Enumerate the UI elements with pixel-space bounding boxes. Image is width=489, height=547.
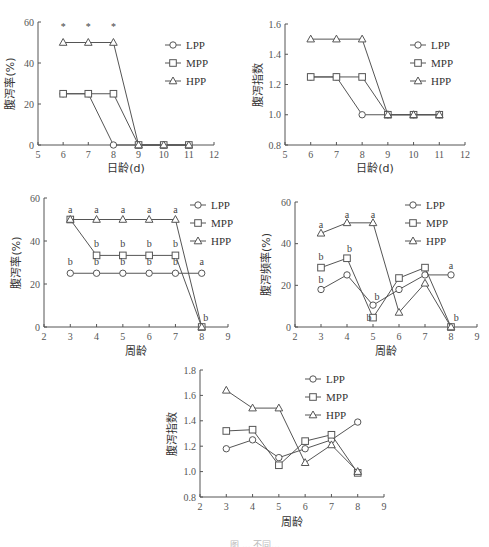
legend-label: HPP bbox=[431, 75, 451, 87]
y-tick-label: 0 bbox=[29, 140, 34, 151]
legend-circle-icon bbox=[410, 202, 416, 208]
legend-label: HPP bbox=[426, 235, 446, 247]
x-tick-label: 12 bbox=[209, 149, 219, 160]
triangle-marker-icon bbox=[369, 219, 377, 226]
x-tick-label: 6 bbox=[61, 149, 66, 160]
square-marker-icon bbox=[344, 255, 351, 262]
panel-2-daily-diarrhea-index: 567891011120.81.01.21.41.6日龄(d)腹泻指数LPPMP… bbox=[251, 19, 470, 176]
x-tick-label: 5 bbox=[371, 331, 376, 342]
circle-marker-icon bbox=[344, 272, 350, 278]
significance-label: b bbox=[173, 238, 178, 249]
legend-label: HPP bbox=[326, 409, 346, 421]
legend-circle-icon bbox=[170, 42, 176, 48]
circle-marker-icon bbox=[249, 437, 255, 443]
y-tick-label: 1.0 bbox=[184, 466, 197, 477]
y-tick-label: 40 bbox=[30, 236, 40, 247]
significance-label: * bbox=[86, 21, 91, 32]
x-tick-label: 11 bbox=[184, 149, 194, 160]
significance-label: a bbox=[121, 204, 126, 215]
triangle-marker-icon bbox=[358, 35, 366, 42]
x-tick-label: 8 bbox=[199, 331, 204, 342]
legend-circle-icon bbox=[415, 42, 421, 48]
square-marker-icon bbox=[396, 275, 403, 282]
significance-label: a bbox=[199, 256, 204, 267]
y-tick-label: 60 bbox=[30, 193, 40, 204]
x-axis-label: 周龄 bbox=[125, 344, 147, 358]
circle-marker-icon bbox=[146, 270, 152, 276]
legend-label: MPP bbox=[326, 391, 348, 403]
significance-label: b bbox=[94, 256, 99, 267]
circle-marker-icon bbox=[199, 270, 205, 276]
significance-label: b bbox=[94, 238, 99, 249]
y-tick-label: 1.4 bbox=[269, 49, 282, 60]
x-tick-label: 5 bbox=[120, 331, 125, 342]
significance-label: b bbox=[367, 312, 372, 323]
y-tick-label: 60 bbox=[24, 17, 34, 28]
significance-label: b bbox=[203, 312, 208, 323]
y-tick-label: 0 bbox=[35, 322, 40, 333]
square-marker-icon bbox=[302, 438, 309, 445]
legend-label: LPP bbox=[431, 39, 450, 51]
circle-marker-icon bbox=[93, 270, 99, 276]
x-tick-label: 4 bbox=[94, 331, 99, 342]
circle-marker-icon bbox=[110, 142, 116, 148]
y-tick-label: 1.6 bbox=[184, 390, 197, 401]
significance-label: * bbox=[111, 21, 116, 32]
significance-label: a bbox=[371, 209, 376, 220]
legend-triangle-icon bbox=[409, 237, 417, 244]
y-tick-label: 0.8 bbox=[184, 492, 197, 503]
circle-marker-icon bbox=[355, 419, 361, 425]
significance-label: * bbox=[61, 21, 66, 32]
x-tick-label: 8 bbox=[360, 149, 365, 160]
significance-label: a bbox=[94, 204, 99, 215]
y-tick-label: 60 bbox=[281, 197, 291, 208]
legend-label: HPP bbox=[186, 75, 206, 87]
x-tick-label: 10 bbox=[409, 149, 419, 160]
significance-label: a bbox=[449, 260, 454, 271]
significance-label: a bbox=[345, 209, 350, 220]
triangle-marker-icon bbox=[93, 216, 101, 223]
x-tick-label: 4 bbox=[345, 331, 350, 342]
legend-square-icon bbox=[415, 60, 422, 67]
legend-label: MPP bbox=[186, 57, 208, 69]
circle-marker-icon bbox=[276, 454, 282, 460]
legend: LPPMPPHPP bbox=[410, 39, 453, 87]
x-tick-label: 8 bbox=[111, 149, 116, 160]
significance-label: b bbox=[173, 256, 178, 267]
square-marker-icon bbox=[223, 428, 230, 435]
x-tick-label: 9 bbox=[475, 331, 480, 342]
triangle-marker-icon bbox=[275, 404, 283, 411]
legend-triangle-icon bbox=[414, 77, 422, 84]
triangle-marker-icon bbox=[145, 216, 153, 223]
y-tick-label: 40 bbox=[281, 238, 291, 249]
triangle-marker-icon bbox=[333, 35, 341, 42]
circle-marker-icon bbox=[223, 446, 229, 452]
y-tick-label: 1.0 bbox=[269, 109, 282, 120]
significance-label: b bbox=[147, 256, 152, 267]
x-axis-label: 日龄(d) bbox=[107, 161, 145, 175]
square-marker-icon bbox=[249, 426, 256, 433]
legend-square-icon bbox=[410, 220, 417, 227]
legend-circle-icon bbox=[195, 202, 201, 208]
square-marker-icon bbox=[60, 90, 67, 97]
legend-square-icon bbox=[170, 60, 177, 67]
panel-1-daily-diarrhea-rate: 567891011120204060日龄(d)腹泻率(%)***LPPMPPHP… bbox=[3, 17, 219, 176]
x-tick-label: 6 bbox=[147, 331, 152, 342]
y-axis-label: 腹泻频率(%) bbox=[259, 233, 273, 296]
legend: LPPMPPHPP bbox=[190, 199, 233, 247]
y-tick-label: 0 bbox=[286, 322, 291, 333]
panel-3-weekly-diarrhea-rate: 234567890204060周龄腹泻率(%)aaaaabbbbbbbbbabL… bbox=[9, 193, 233, 359]
circle-marker-icon bbox=[67, 270, 73, 276]
x-tick-label: 8 bbox=[355, 501, 360, 512]
panel-4-weekly-diarrhea-frequency: 234567890204060周龄腹泻频率(%)aaabbbbbabLPPMPP… bbox=[259, 197, 480, 359]
triangle-marker-icon bbox=[421, 279, 429, 286]
triangle-marker-icon bbox=[110, 39, 118, 46]
legend-triangle-icon bbox=[194, 237, 202, 244]
series-line-lpp bbox=[321, 275, 451, 305]
legend-label: LPP bbox=[426, 199, 445, 211]
x-axis-label: 日龄(d) bbox=[356, 161, 394, 175]
x-tick-label: 9 bbox=[382, 501, 387, 512]
legend-label: LPP bbox=[326, 373, 345, 385]
legend: LPPMPPHPP bbox=[405, 199, 448, 247]
significance-label: b bbox=[347, 243, 352, 254]
